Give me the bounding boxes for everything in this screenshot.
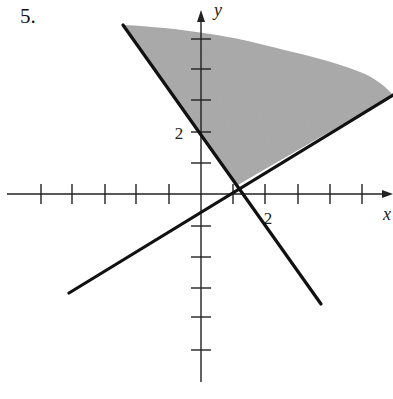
- y-axis-label: y: [212, 0, 222, 20]
- problem-number: 5.: [20, 4, 36, 29]
- x-axis-label: x: [382, 204, 391, 224]
- y-tick-label-2: 2: [175, 124, 184, 143]
- y-axis-arrow-icon: [197, 10, 205, 22]
- x-axis: 2 x: [7, 184, 393, 228]
- graph-figure: 5.: [0, 0, 393, 399]
- coordinate-plane: 2 x 2 y: [0, 0, 393, 399]
- x-axis-arrow-icon: [382, 190, 393, 198]
- shaded-region-texture: [123, 25, 393, 186]
